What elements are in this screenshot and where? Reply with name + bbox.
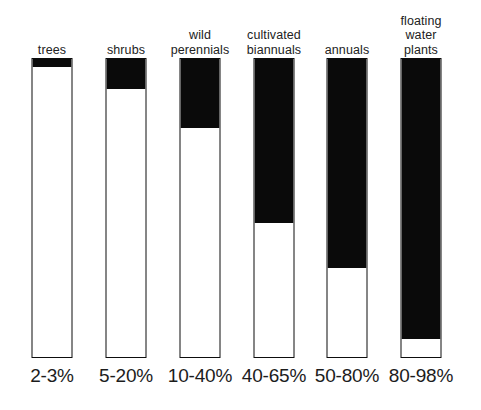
bar-fill-shrubs (107, 59, 146, 89)
bar-column-shrubs: shrubs 5-20% (89, 0, 163, 410)
bar-chart-figure: trees 2-3% shrubs 5-20% wild perennials … (0, 0, 481, 410)
bar-column-cultivated-biannuals: cultivated biannuals 40-65% (237, 0, 311, 410)
bar-column-trees: trees 2-3% (15, 0, 89, 410)
bar-fill-wild-perennials (181, 59, 220, 128)
bar-floating-water-plants (401, 58, 442, 358)
bar-fill-annuals (328, 59, 367, 268)
bar-fill-floating-water-plants (402, 59, 441, 339)
bar-column-wild-perennials: wild perennials 10-40% (163, 0, 237, 410)
bar-category-label: floating water plants (377, 14, 465, 58)
bar-fill-cultivated-biannuals (255, 59, 294, 223)
bar-column-annuals: annuals 50-80% (310, 0, 384, 410)
bar-percentage-label: 80-98% (378, 364, 464, 387)
bar-shrubs (106, 58, 147, 358)
bar-annuals (327, 58, 368, 358)
bar-wild-perennials (180, 58, 221, 358)
bar-column-floating-water-plants: floating water plants 80-98% (384, 0, 458, 410)
bar-trees (32, 58, 73, 358)
bar-cultivated-biannuals (254, 58, 295, 358)
bar-fill-trees (33, 59, 72, 67)
